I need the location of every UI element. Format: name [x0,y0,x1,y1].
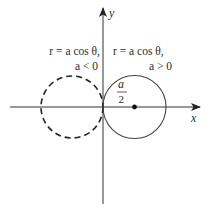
radius-denominator: 2 [119,93,125,105]
polar-circles-diagram: a 2 x y r = a cos θ, a < 0 r = a cos θ, … [0,0,210,213]
center-dot [132,105,137,110]
right-equation: r = a cos θ, [113,45,164,58]
x-axis-label: x [190,111,197,125]
y-axis-label: y [108,6,115,20]
left-equation: r = a cos θ, [49,45,100,58]
right-condition: a > 0 [149,60,172,72]
left-condition: a < 0 [75,60,98,72]
radius-numerator: a [118,77,124,91]
